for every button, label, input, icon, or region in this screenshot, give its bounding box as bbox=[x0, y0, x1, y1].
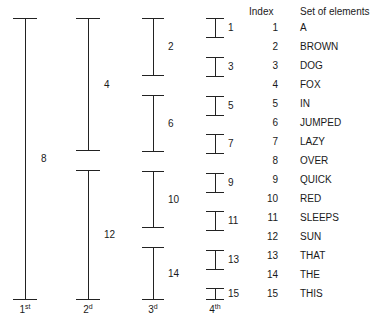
bracket-cap-bottom bbox=[206, 230, 224, 231]
table-header-index: Index bbox=[249, 6, 273, 17]
table-cell-element: THE bbox=[300, 269, 320, 280]
pass-ordinal-suffix: d bbox=[154, 303, 158, 310]
table-cell-element: LAZY bbox=[300, 136, 325, 147]
table-cell-index: 13 bbox=[267, 250, 278, 261]
bracket-pass-4-13: 13 bbox=[206, 250, 224, 270]
bracket-label: 6 bbox=[168, 119, 174, 129]
bracket-stem bbox=[215, 250, 216, 270]
pass-ordinal-pass-1: 1st bbox=[19, 303, 30, 315]
pass-ordinal-suffix: th bbox=[215, 303, 221, 310]
bracket-pass-4-9: 9 bbox=[206, 173, 224, 193]
table-cell-index: 3 bbox=[272, 60, 278, 71]
bracket-cap-bottom bbox=[142, 151, 164, 152]
bracket-cap-bottom bbox=[142, 75, 164, 76]
bracket-cap-bottom bbox=[206, 76, 224, 77]
table-cell-index: 5 bbox=[272, 98, 278, 109]
bracket-label: 4 bbox=[104, 80, 110, 90]
table-cell-index: 6 bbox=[272, 117, 278, 128]
bracket-label: 15 bbox=[228, 289, 239, 299]
bracket-pass-4-15: 15 bbox=[206, 288, 224, 300]
bracket-pass-4-1: 1 bbox=[206, 18, 224, 38]
table-cell-element: IN bbox=[300, 98, 310, 109]
table-cell-index: 10 bbox=[267, 193, 278, 204]
bracket-stem bbox=[25, 18, 26, 300]
bracket-cap-bottom bbox=[206, 269, 224, 270]
bracket-pass-4-7: 7 bbox=[206, 134, 224, 154]
pass-ordinal-pass-3: 3d bbox=[148, 303, 157, 315]
bracket-pass-3-6: 6 bbox=[142, 95, 164, 152]
table-cell-element: RED bbox=[300, 193, 321, 204]
bracket-label: 14 bbox=[168, 269, 179, 279]
bracket-pass-4-5: 5 bbox=[206, 96, 224, 116]
table-cell-element: JUMPED bbox=[300, 117, 341, 128]
bracket-stem bbox=[215, 211, 216, 231]
bracket-stem bbox=[215, 18, 216, 38]
bracket-cap-bottom bbox=[206, 115, 224, 116]
table-cell-element: DOG bbox=[300, 60, 323, 71]
bracket-label: 13 bbox=[228, 255, 239, 265]
table-cell-index: 2 bbox=[272, 41, 278, 52]
pass-ordinal-pass-2: 2d bbox=[83, 303, 92, 315]
table-cell-index: 9 bbox=[272, 174, 278, 185]
table-cell-element: THAT bbox=[300, 250, 325, 261]
table-cell-element: SUN bbox=[300, 231, 321, 242]
bracket-pass-3-14: 14 bbox=[142, 247, 164, 300]
table-cell-element: OVER bbox=[300, 155, 328, 166]
bracket-pass-4-11: 11 bbox=[206, 211, 224, 231]
bracket-label: 10 bbox=[168, 195, 179, 205]
table-cell-index: 11 bbox=[268, 212, 278, 223]
pass-ordinal-suffix: d bbox=[89, 303, 93, 310]
table-cell-index: 8 bbox=[272, 155, 278, 166]
bracket-label: 3 bbox=[228, 62, 234, 72]
bracket-stem bbox=[215, 96, 216, 116]
bracket-label: 8 bbox=[41, 154, 47, 164]
table-cell-element: A bbox=[300, 22, 307, 33]
table-cell-element: BROWN bbox=[300, 41, 338, 52]
bracket-label: 1 bbox=[228, 23, 234, 33]
bracket-pass-1-8: 8 bbox=[13, 18, 37, 300]
sort-pass-figure: 81st4122d2610143d135791113154thIndexSet … bbox=[0, 0, 387, 331]
table-cell-index: 1 bbox=[272, 22, 278, 33]
table-cell-index: 15 bbox=[267, 288, 278, 299]
bracket-label: 5 bbox=[228, 101, 234, 111]
bracket-stem bbox=[215, 173, 216, 193]
bracket-pass-2-12: 12 bbox=[76, 170, 100, 300]
bracket-cap-bottom bbox=[206, 192, 224, 193]
bracket-cap-bottom bbox=[76, 150, 100, 151]
bracket-cap-bottom bbox=[206, 153, 224, 154]
bracket-cap-bottom bbox=[206, 37, 224, 38]
bracket-stem bbox=[153, 18, 154, 76]
bracket-cap-bottom bbox=[76, 299, 100, 300]
bracket-label: 9 bbox=[228, 178, 234, 188]
table-cell-index: 12 bbox=[267, 231, 278, 242]
bracket-stem bbox=[88, 170, 89, 300]
bracket-stem bbox=[153, 171, 154, 228]
table-cell-element: THIS bbox=[300, 288, 323, 299]
bracket-cap-bottom bbox=[142, 227, 164, 228]
table-cell-element: FOX bbox=[300, 79, 321, 90]
bracket-pass-2-4: 4 bbox=[76, 18, 100, 151]
bracket-label: 12 bbox=[104, 230, 115, 240]
bracket-pass-3-2: 2 bbox=[142, 18, 164, 76]
bracket-stem bbox=[153, 247, 154, 300]
table-cell-index: 4 bbox=[272, 79, 278, 90]
table-cell-element: QUICK bbox=[300, 174, 332, 185]
bracket-cap-bottom bbox=[13, 299, 37, 300]
bracket-stem bbox=[215, 134, 216, 154]
bracket-cap-bottom bbox=[142, 299, 164, 300]
bracket-stem bbox=[88, 18, 89, 151]
table-header-elements: Set of elements bbox=[300, 6, 369, 17]
pass-ordinal-suffix: st bbox=[25, 303, 30, 310]
bracket-pass-3-10: 10 bbox=[142, 171, 164, 228]
table-cell-index: 14 bbox=[267, 269, 278, 280]
bracket-label: 11 bbox=[228, 216, 238, 226]
bracket-label: 7 bbox=[228, 139, 234, 149]
bracket-stem bbox=[215, 57, 216, 77]
table-cell-element: SLEEPS bbox=[300, 212, 339, 223]
bracket-pass-4-3: 3 bbox=[206, 57, 224, 77]
bracket-stem bbox=[153, 95, 154, 152]
pass-ordinal-pass-4: 4th bbox=[209, 303, 220, 315]
table-cell-index: 7 bbox=[272, 136, 278, 147]
bracket-cap-bottom bbox=[206, 299, 224, 300]
bracket-label: 2 bbox=[168, 42, 174, 52]
